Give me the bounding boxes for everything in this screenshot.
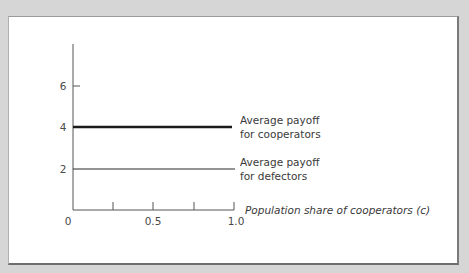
defectors-label-line1: Average payoff [240,156,320,168]
x-tick-label-0: 0 [65,215,72,227]
defectors-label-line2: for defectors [240,170,307,182]
cooperators-label-line2: for cooperators [240,128,321,140]
x-tick-label-05: 0.5 [145,215,162,227]
y-tick-label-2: 2 [60,163,67,175]
x-tick-label-10: 1.0 [228,215,245,227]
chart-svg: 6 4 2 0 0.5 1.0 Average payoff for coope… [0,0,469,273]
cooperators-label-line1: Average payoff [240,114,320,126]
x-axis-title: Population share of cooperators (c) [245,204,430,216]
y-tick-label-6: 6 [60,80,67,92]
y-tick-label-4: 4 [60,121,67,133]
